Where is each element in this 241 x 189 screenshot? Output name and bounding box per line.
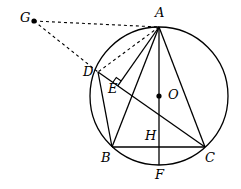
point-label-B: B [101,151,111,164]
point-dot-O [156,93,161,98]
point-label-H: H [145,129,156,142]
segment-G-A [34,21,159,27]
point-label-C: C [205,151,215,164]
geometry-figure: A B C D E F G H O [0,0,241,189]
point-label-E: E [108,82,118,95]
point-label-A: A [155,6,164,19]
point-label-G: G [20,11,30,24]
point-dot-G [31,18,36,23]
point-label-O: O [168,88,179,101]
point-label-F: F [155,168,164,181]
point-label-D: D [83,65,93,78]
segment-A-C [159,27,205,147]
